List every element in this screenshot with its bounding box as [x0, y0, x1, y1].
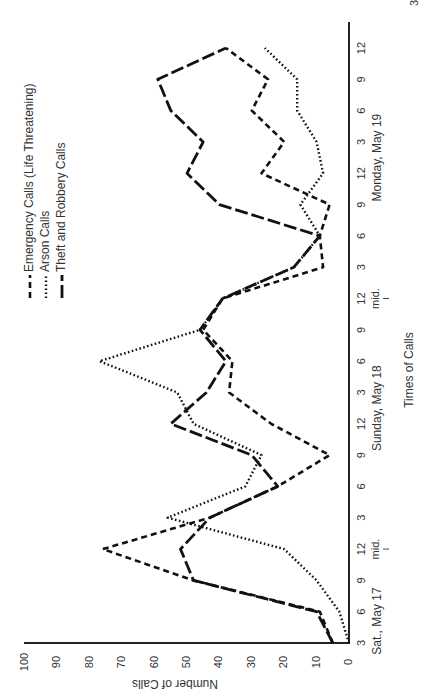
- time-tick-label: 9: [355, 76, 367, 82]
- time-tick-label: 6: [355, 358, 367, 364]
- rotated-line-chart: 0102030405060708090100Number of Calls369…: [0, 0, 431, 699]
- series-long-dash-line: [158, 48, 333, 643]
- time-tick-label: 3: [355, 139, 367, 145]
- legend-label: Arson Calls: [38, 211, 52, 272]
- page-number: 37: [408, 0, 420, 6]
- time-tick-label: 6: [355, 108, 367, 114]
- time-tick-label: 12: [355, 292, 367, 304]
- time-tick-label: 9: [355, 452, 367, 458]
- series-lines: [100, 48, 350, 643]
- time-tick-label: 3: [355, 389, 367, 395]
- time-tick-label: 12: [355, 418, 367, 430]
- value-tick-label: 60: [148, 656, 160, 668]
- time-tick-label: 9: [355, 202, 367, 208]
- midnight-label: mid.: [369, 288, 381, 309]
- time-tick-label: 3: [355, 640, 367, 646]
- value-tick-label: 40: [212, 656, 224, 668]
- time-tick-label: 6: [355, 483, 367, 489]
- midnight-label: mid.: [369, 539, 381, 560]
- value-axis-title: Number of Calls: [132, 677, 218, 691]
- axes: 0102030405060708090100Number of Calls369…: [18, 22, 416, 691]
- time-tick-label: 3: [355, 515, 367, 521]
- value-tick-label: 20: [277, 656, 289, 668]
- time-tick-label: 12: [355, 42, 367, 54]
- day-label: Monday, May 19: [370, 113, 384, 201]
- value-tick-label: 70: [115, 656, 127, 668]
- legend-label: Emergency Calls (Life Threatening): [22, 83, 36, 272]
- value-tick-label: 90: [50, 656, 62, 668]
- time-axis-title: Times of Calls: [402, 332, 416, 408]
- value-tick-label: 100: [18, 653, 30, 671]
- value-tick-label: 10: [310, 656, 322, 668]
- time-tick-label: 6: [355, 233, 367, 239]
- day-label: Sunday, May 18: [370, 365, 384, 451]
- value-tick-label: 30: [245, 656, 257, 668]
- legend-label: Theft and Robbery Calls: [54, 143, 68, 272]
- series-dotted-line: [100, 48, 350, 643]
- time-tick-label: 6: [355, 609, 367, 615]
- value-tick-label: 0: [342, 659, 354, 665]
- value-tick-label: 50: [180, 656, 192, 668]
- time-tick-label: 9: [355, 577, 367, 583]
- value-tick-label: 80: [83, 656, 95, 668]
- series-short-dash-line: [103, 48, 333, 643]
- legend: Emergency Calls (Life Threatening)Arson …: [22, 83, 68, 298]
- time-tick-label: 9: [355, 327, 367, 333]
- time-tick-label: 12: [355, 543, 367, 555]
- time-tick-label: 12: [355, 167, 367, 179]
- time-tick-label: 3: [355, 264, 367, 270]
- day-label: Sat., May 17: [370, 587, 384, 655]
